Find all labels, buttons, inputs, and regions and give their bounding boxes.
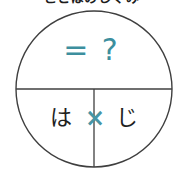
circle-diagram: [0, 0, 183, 179]
diagram-canvas: ことばのしくみ = ? は × じ: [0, 0, 183, 179]
